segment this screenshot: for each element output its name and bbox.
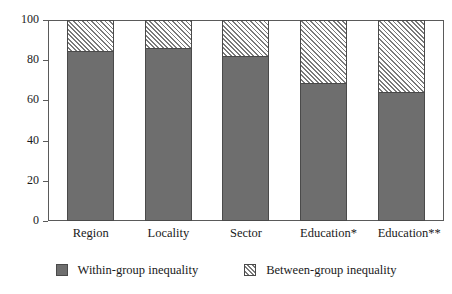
y-axis: 020406080100 — [0, 20, 48, 221]
bar-column[interactable] — [145, 20, 192, 221]
legend-label: Within-group inequality — [78, 262, 199, 278]
bar-segment-between-group[interactable] — [300, 20, 347, 83]
x-axis-category-label: Region — [67, 224, 114, 246]
y-axis-tick-label: 40 — [27, 133, 39, 148]
bar-segment-between-group[interactable] — [145, 20, 192, 48]
x-axis-category-label: Education** — [378, 224, 425, 246]
bar-column[interactable] — [300, 20, 347, 221]
bar-column[interactable] — [67, 20, 114, 221]
bar-segment-within-group[interactable] — [300, 83, 347, 221]
bar-segment-between-group[interactable] — [222, 20, 269, 56]
x-axis-labels: RegionLocalitySectorEducation*Education*… — [48, 224, 444, 246]
plot-area — [48, 20, 444, 221]
bar-column[interactable] — [222, 20, 269, 221]
bar-segment-within-group[interactable] — [378, 92, 425, 221]
hatched-swatch — [244, 264, 256, 276]
legend-entry[interactable]: Within-group inequality — [56, 262, 199, 278]
y-axis-tick-label: 0 — [33, 213, 39, 228]
solid-gray-swatch — [56, 264, 68, 276]
x-axis-category-label: Sector — [222, 224, 269, 246]
y-axis-tick-label: 60 — [27, 92, 39, 107]
chart-legend: Within-group inequalityBetween-group ine… — [0, 258, 452, 282]
bar-segment-within-group[interactable] — [222, 56, 269, 221]
bar-segment-between-group[interactable] — [67, 20, 114, 51]
legend-label: Between-group inequality — [266, 262, 396, 278]
bar-column[interactable] — [378, 20, 425, 221]
y-axis-tick-label: 80 — [27, 52, 39, 67]
bars-container — [48, 20, 444, 221]
bar-segment-within-group[interactable] — [145, 48, 192, 221]
y-axis-tick-label: 20 — [27, 173, 39, 188]
stacked-bar-chart-figure: 020406080100 RegionLocalitySectorEducati… — [0, 0, 452, 294]
y-axis-tick-label: 100 — [21, 12, 39, 27]
legend-entry[interactable]: Between-group inequality — [244, 262, 396, 278]
bar-segment-between-group[interactable] — [378, 20, 425, 92]
y-axis-tick-mark — [43, 221, 48, 222]
x-axis-category-label: Education* — [300, 224, 347, 246]
x-axis-category-label: Locality — [145, 224, 192, 246]
bar-segment-within-group[interactable] — [67, 51, 114, 221]
